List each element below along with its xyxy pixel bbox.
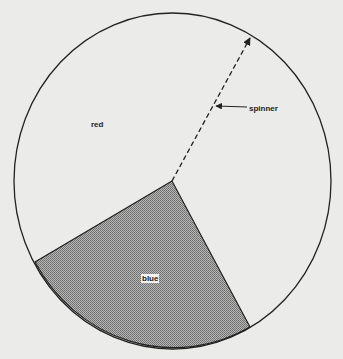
spinner-graphic [0, 0, 343, 359]
blue-label: blue [141, 274, 159, 283]
spinner-arrow [172, 38, 250, 181]
spinner-label: spinner [249, 104, 278, 113]
red-label: red [91, 120, 103, 129]
spinner-pointer-line [216, 106, 247, 107]
blue-sector [35, 181, 250, 348]
spinner-diagram: red spinner blue [0, 0, 343, 359]
